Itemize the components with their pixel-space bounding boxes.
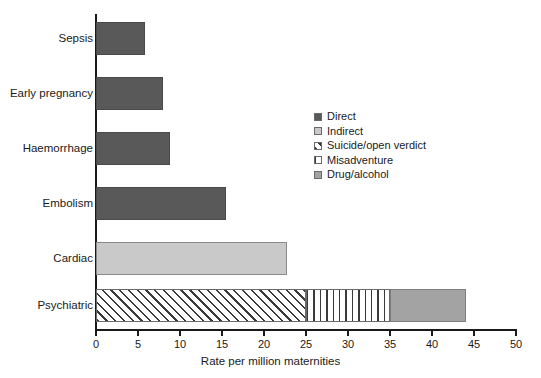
- x-tick-20: [263, 330, 265, 336]
- x-tick-label-15: 15: [216, 338, 228, 350]
- bar-segment-psychiatric-suicide-open-verdict[interactable]: [96, 289, 306, 322]
- x-tick-35: [389, 330, 391, 336]
- bar-segment-psychiatric-drug-alcohol[interactable]: [390, 289, 466, 322]
- x-tick-label-0: 0: [93, 338, 99, 350]
- legend-swatch-misadventure-icon: [314, 156, 322, 164]
- legend-item-indirect[interactable]: Indirect: [314, 125, 426, 139]
- legend-item-suicide-open-verdict[interactable]: Suicide/open verdict: [314, 139, 426, 153]
- category-label-haemorrhage: Haemorrhage: [23, 142, 93, 154]
- x-tick-label-35: 35: [384, 338, 396, 350]
- x-tick-label-10: 10: [174, 338, 186, 350]
- bar-segment-psychiatric-misadventure[interactable]: [306, 289, 390, 322]
- x-tick-label-20: 20: [258, 338, 270, 350]
- legend-swatch-drug-alcohol-icon: [314, 171, 322, 179]
- legend-swatch-indirect-icon: [314, 127, 322, 135]
- legend-swatch-suicide-icon: [314, 142, 322, 150]
- legend-label-direct: Direct: [327, 110, 356, 124]
- legend-swatch-direct-icon: [314, 113, 322, 121]
- x-tick-label-30: 30: [342, 338, 354, 350]
- category-label-embolism: Embolism: [43, 197, 93, 209]
- legend-item-drug-alcohol[interactable]: Drug/alcohol: [314, 168, 426, 182]
- legend-label-misadventure: Misadventure: [327, 154, 393, 168]
- bar-chart: 0 5 10 15 20 25 30 35 40 45 50 Rate per …: [0, 0, 541, 378]
- x-tick-label-45: 45: [468, 338, 480, 350]
- bar-segment-haemorrhage-direct[interactable]: [96, 132, 170, 165]
- x-axis-title: Rate per million maternities: [0, 355, 541, 367]
- bar-row-early-pregnancy: [96, 77, 516, 110]
- legend-label-indirect: Indirect: [327, 125, 363, 139]
- x-tick-0: [95, 330, 97, 336]
- category-label-sepsis: Sepsis: [58, 32, 93, 44]
- bar-row-psychiatric: [96, 289, 516, 322]
- category-label-early-pregnancy: Early pregnancy: [10, 87, 93, 99]
- legend-item-direct[interactable]: Direct: [314, 110, 426, 124]
- x-tick-40: [431, 330, 433, 336]
- bar-segment-early-pregnancy-direct[interactable]: [96, 77, 163, 110]
- bar-row-cardiac: [96, 242, 516, 275]
- x-tick-label-50: 50: [510, 338, 522, 350]
- x-tick-25: [305, 330, 307, 336]
- x-tick-50: [515, 330, 517, 336]
- bar-segment-embolism-direct[interactable]: [96, 187, 226, 220]
- y-axis-line: [95, 14, 97, 330]
- bar-row-sepsis: [96, 22, 516, 55]
- legend-item-misadventure[interactable]: Misadventure: [314, 154, 426, 168]
- x-tick-15: [221, 330, 223, 336]
- legend-label-suicide-open-verdict: Suicide/open verdict: [327, 139, 426, 153]
- bar-row-embolism: [96, 187, 516, 220]
- bar-segment-sepsis-direct[interactable]: [96, 22, 145, 55]
- x-tick-10: [179, 330, 181, 336]
- x-tick-label-40: 40: [426, 338, 438, 350]
- legend-label-drug-alcohol: Drug/alcohol: [327, 168, 389, 182]
- x-tick-30: [347, 330, 349, 336]
- bar-segment-cardiac-indirect[interactable]: [96, 242, 287, 275]
- x-tick-5: [137, 330, 139, 336]
- legend: Direct Indirect Suicide/open verdict Mis…: [314, 110, 426, 183]
- x-tick-45: [473, 330, 475, 336]
- category-label-psychiatric: Psychiatric: [37, 299, 93, 311]
- bar-row-haemorrhage: [96, 132, 516, 165]
- x-tick-label-25: 25: [300, 338, 312, 350]
- category-label-cardiac: Cardiac: [53, 252, 93, 264]
- x-tick-label-5: 5: [135, 338, 141, 350]
